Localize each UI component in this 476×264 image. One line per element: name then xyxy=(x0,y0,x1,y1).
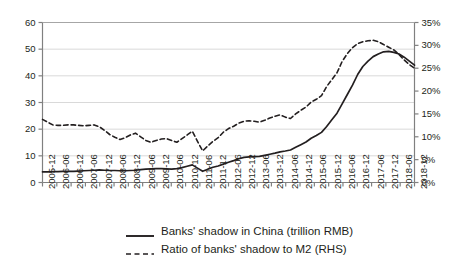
legend-swatch-solid-icon xyxy=(126,227,154,237)
left-axis-tick-label: 0 xyxy=(0,178,36,188)
x-axis-tick-label: 2016-12 xyxy=(361,154,371,189)
x-axis-tick-label: 2013-12 xyxy=(275,154,285,189)
x-axis-tick-label: 2015-12 xyxy=(333,154,343,189)
right-axis-tick-label: 35% xyxy=(422,18,441,28)
left-axis-tick-label: 30 xyxy=(0,98,36,108)
right-axis-tick-label: 15% xyxy=(422,109,441,119)
chart-legend: Banks' shadow in China (trillion RMB)Rat… xyxy=(126,224,353,257)
x-axis-tick-label: 2007-06 xyxy=(89,154,99,189)
x-axis-tick-label: 2006-06 xyxy=(61,154,71,189)
left-axis-tick-label: 40 xyxy=(0,71,36,81)
x-axis-tick-label: 2006-12 xyxy=(75,154,85,189)
series-line-2 xyxy=(43,40,415,151)
chart-container: 0102030405060 0%5%10%15%20%25%30%35% 200… xyxy=(0,0,476,264)
x-axis-tick-label: 2009-06 xyxy=(147,154,157,189)
x-axis-tick-label: 2010-06 xyxy=(175,154,185,189)
legend-item: Ratio of banks' shadow to M2 (RHS) xyxy=(126,242,353,257)
x-axis-tick-label: 2008-06 xyxy=(118,154,128,189)
x-axis-tick-label: 2011-06 xyxy=(204,154,214,188)
x-axis-tick-label: 2008-12 xyxy=(132,154,142,189)
right-axis-tick-label: 10% xyxy=(422,132,441,142)
x-axis-tick-label: 2015-06 xyxy=(318,154,328,189)
x-axis-tick-label: 2018-06 xyxy=(404,154,414,189)
left-axis-tick-label: 10 xyxy=(0,151,36,161)
right-axis-tick-label: 30% xyxy=(422,41,441,51)
x-axis-tick-label: 2010-12 xyxy=(190,154,200,189)
legend-item: Banks' shadow in China (trillion RMB) xyxy=(126,224,353,239)
x-axis-tick-label: 2017-06 xyxy=(376,154,386,189)
x-axis-tick-label: 2014-12 xyxy=(304,154,314,189)
x-axis-tick-label: 2012-12 xyxy=(247,154,257,189)
data-series-lines xyxy=(43,40,415,172)
x-axis-tick-label: 2016-06 xyxy=(347,154,357,189)
x-axis-tick-label: 2013-06 xyxy=(261,154,271,189)
left-axis-tick-label: 20 xyxy=(0,124,36,134)
x-axis-tick-label: 2017-12 xyxy=(390,154,400,189)
left-axis-tick-label: 60 xyxy=(0,18,36,28)
x-axis-tick-label: 2005-12 xyxy=(47,154,57,189)
x-axis-tick-label: 2007-12 xyxy=(104,154,114,189)
right-axis-tick-label: 25% xyxy=(422,63,441,73)
x-axis-tick-label: 2012-06 xyxy=(233,154,243,189)
legend-label: Ratio of banks' shadow to M2 (RHS) xyxy=(161,244,347,256)
x-axis-tick-label: 2009-12 xyxy=(161,154,171,189)
x-axis-tick-label: 2014-06 xyxy=(290,154,300,189)
x-axis-tick-label: 2011-12 xyxy=(218,154,228,188)
x-axis-tick-label: 2018-12 xyxy=(419,154,429,189)
legend-label: Banks' shadow in China (trillion RMB) xyxy=(161,226,353,238)
legend-swatch-dashed-icon xyxy=(126,245,154,255)
left-axis-tick-label: 50 xyxy=(0,44,36,54)
right-axis-tick-label: 20% xyxy=(422,86,441,96)
